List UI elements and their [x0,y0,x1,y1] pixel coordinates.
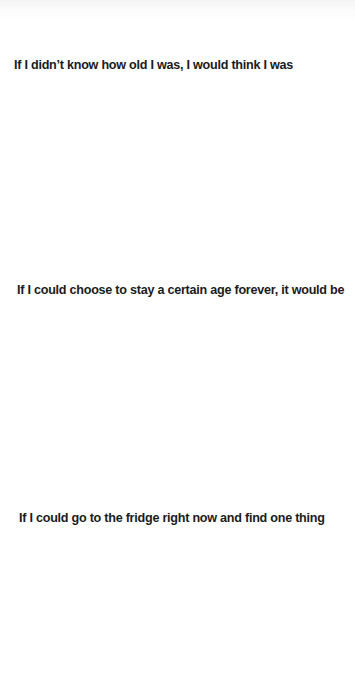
journal-page: If I didn’t know how old I was, I would … [0,0,355,693]
answer-space-age-guess [14,80,334,270]
prompt-stay-age-forever: If I could choose to stay a certain age … [17,281,344,299]
answer-space-stay-age-forever [14,305,334,500]
prompt-fridge-one-thing: If I could go to the fridge right now an… [19,509,325,527]
prompt-age-guess: If I didn’t know how old I was, I would … [14,56,293,74]
answer-space-fridge-one-thing [14,533,334,683]
